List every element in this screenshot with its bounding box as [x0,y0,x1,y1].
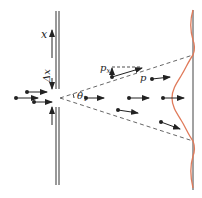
particle [150,77,170,81]
particle [159,120,180,129]
particle [32,100,52,104]
intensity-curve [172,10,195,188]
px-label: px [100,62,110,75]
momentum-vector [112,68,142,77]
particle [14,96,38,100]
particle-with-momentum [110,67,142,79]
x-axis-label: x [41,28,48,41]
particle [116,108,138,113]
diffraction-diagram: x Δx θ1 px p [0,0,202,198]
particle [25,90,47,94]
slit-wall-top [56,11,59,89]
p-label: p [140,72,147,83]
angle-arc [73,94,74,98]
slit-width-label: Δx [41,69,52,83]
slit-wall-bottom [56,107,59,185]
particle [84,96,104,100]
particle [127,96,149,100]
